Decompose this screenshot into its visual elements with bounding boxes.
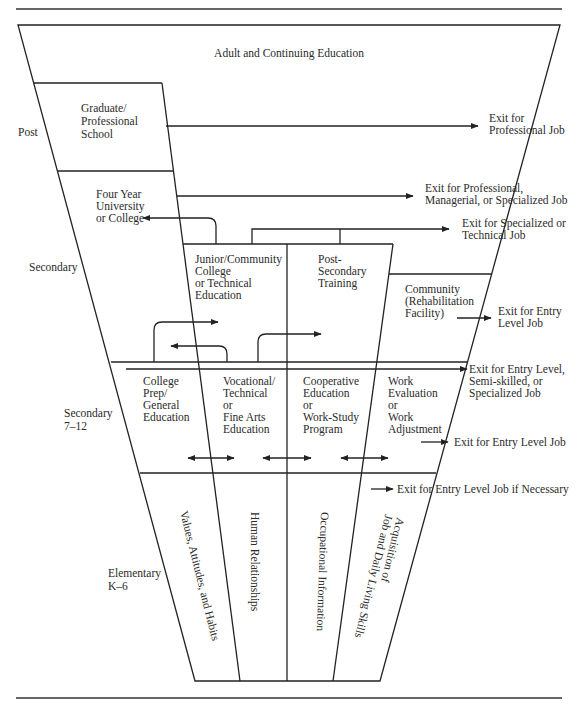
- exit-entry-semi: Exit for Entry Level,Semi-skilled, orSpe…: [469, 363, 565, 400]
- box-cooperative: CooperativeEducationorWork-StudyProgram: [303, 375, 359, 436]
- prep-to-junior-arrow: [154, 322, 218, 362]
- box-postsecondary: Post-SecondaryTraining: [318, 253, 367, 290]
- level-elementary: ElementaryK–6: [108, 567, 161, 592]
- career-education-funnel-diagram: Post Secondary Secondary7–12 ElementaryK…: [0, 0, 579, 705]
- box-university: Four YearUniversityor College: [96, 188, 145, 225]
- column-acquisition: Acquisition ofJob and Daily Living Skill…: [352, 513, 407, 642]
- exit-arrow-technical: [252, 229, 449, 244]
- vocational-to-prep-arrow: [171, 346, 227, 362]
- column-occupational: Occupational Information: [314, 512, 331, 632]
- box-work-eval: WorkEvaluationorWorkAdjustment: [388, 375, 442, 436]
- box-adult: Adult and Continuing Education: [214, 47, 364, 60]
- exit-entry-community: Exit for EntryLevel Job: [498, 305, 562, 329]
- box-community: Community(RehabilitationFacility): [405, 283, 474, 320]
- box-college-prep: CollegePrep/GeneralEducation: [143, 375, 190, 423]
- vocational-to-postsecondary-arrow: [258, 334, 321, 362]
- box-junior: Junior/CommunityCollegeor TechnicalEduca…: [195, 253, 282, 301]
- column-values: Values, Attitudes, and Habits: [177, 510, 222, 643]
- level-post: Post: [18, 126, 39, 138]
- exit-managerial: Exit for Professional,Managerial, or Spe…: [425, 182, 568, 207]
- exit-technical: Exit for Specialized orTechnical Job: [462, 217, 566, 241]
- level-secondary: Secondary: [29, 261, 78, 274]
- exit-professional: Exit forProfessional Job: [489, 112, 565, 136]
- box-graduate: Graduate/ProfessionalSchool: [81, 102, 138, 140]
- level-secondary-712: Secondary7–12: [64, 407, 113, 432]
- column-human-relationships: Human Relationships: [248, 512, 261, 612]
- exit-entry-necessary: Exit for Entry Level Job if Necessary: [397, 483, 569, 496]
- exit-entry-work: Exit for Entry Level Job: [454, 436, 566, 449]
- box-vocational: Vocational/TechnicalorFine ArtsEducation: [223, 375, 276, 435]
